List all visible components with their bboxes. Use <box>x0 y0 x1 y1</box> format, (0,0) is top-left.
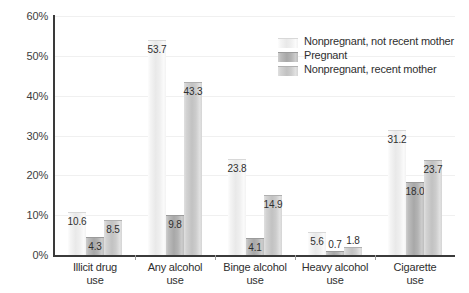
bar-value-label: 18.0 <box>405 186 424 197</box>
y-axis-tick-label: 60% <box>0 10 48 22</box>
x-axis-category-label: Binge alcoholuse <box>215 261 295 286</box>
y-axis-tick-label: 20% <box>0 169 48 181</box>
y-axis-tick-label: 0% <box>0 249 48 261</box>
bar <box>184 82 202 255</box>
category-label-line: use <box>375 274 455 287</box>
y-axis-tick-label: 40% <box>0 90 48 102</box>
bar-value-label: 9.8 <box>168 219 182 230</box>
category-label-line: use <box>135 274 215 287</box>
category-separator <box>375 255 376 260</box>
bar <box>344 247 362 255</box>
legend-swatch-icon <box>278 52 298 62</box>
x-axis-category-label: Illicit druguse <box>55 261 135 286</box>
legend-item-label: Nonpregnant, recent mother <box>304 63 436 75</box>
bar-value-label: 8.5 <box>106 224 120 235</box>
bar-value-label: 31.2 <box>387 134 406 145</box>
x-axis-category-label: Any alcoholuse <box>135 261 215 286</box>
gridline <box>55 56 455 57</box>
category-label-line: use <box>295 274 375 287</box>
category-separator <box>295 255 296 260</box>
y-axis-tick-label: 50% <box>0 50 48 62</box>
category-separator <box>135 255 136 260</box>
legend-swatch-icon <box>278 66 298 76</box>
y-axis-tick-label: 10% <box>0 209 48 221</box>
bar-value-label: 0.7 <box>328 239 342 250</box>
bar-value-label: 4.1 <box>248 242 262 253</box>
category-label-line: Cigarette <box>375 261 455 274</box>
legend-item-label: Nonpregnant, not recent mother <box>304 35 454 47</box>
bar-value-label: 5.6 <box>310 236 324 247</box>
bar-value-label: 14.9 <box>263 199 282 210</box>
category-label-line: Illicit drug <box>55 261 135 274</box>
category-label-line: use <box>55 274 135 287</box>
plot-area: 10.64.38.553.79.843.323.84.114.95.60.71.… <box>55 16 455 255</box>
category-label-line: Any alcohol <box>135 261 215 274</box>
category-label-line: Heavy alcohol <box>295 261 375 274</box>
x-axis-category-label: Cigaretteuse <box>375 261 455 286</box>
category-label-line: use <box>215 274 295 287</box>
gridline <box>55 96 455 97</box>
category-label-line: Binge alcohol <box>215 261 295 274</box>
bar-value-label: 10.6 <box>67 216 86 227</box>
bar-value-label: 53.7 <box>147 44 166 55</box>
bar <box>388 130 406 255</box>
y-axis-tick-label: 30% <box>0 130 48 142</box>
bar-chart: 10.64.38.553.79.843.323.84.114.95.60.71.… <box>0 0 469 293</box>
gridline <box>55 16 455 17</box>
bar-value-label: 23.7 <box>423 164 442 175</box>
legend-item-label: Pregnant <box>304 49 347 61</box>
bar <box>148 40 166 255</box>
bar-value-label: 1.8 <box>346 235 360 246</box>
x-axis-category-label: Heavy alcoholuse <box>295 261 375 286</box>
y-axis-line <box>53 15 55 256</box>
bar-value-label: 43.3 <box>183 86 202 97</box>
bar-value-label: 4.3 <box>88 241 102 252</box>
bar-value-label: 23.8 <box>227 163 246 174</box>
category-separator <box>215 255 216 260</box>
x-axis-line <box>53 255 455 257</box>
legend-swatch-icon <box>278 38 298 48</box>
